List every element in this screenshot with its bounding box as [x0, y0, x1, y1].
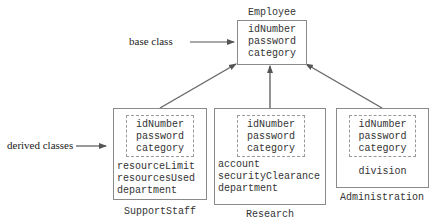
field: resourcesUsed — [117, 173, 195, 185]
field: department — [117, 185, 195, 197]
inherited-fields-box: idNumber password category — [349, 115, 416, 157]
research-class-box: idNumber password category account secur… — [214, 108, 326, 205]
field: idNumber — [238, 24, 306, 36]
derived-classes-label: derived classes — [7, 139, 73, 151]
field: account — [218, 159, 320, 171]
field: division — [337, 166, 428, 178]
field: password — [350, 131, 415, 143]
employee-class-box: idNumber password category — [237, 20, 307, 65]
field: password — [127, 131, 193, 143]
field: category — [238, 143, 304, 155]
administration-title: Administration — [330, 192, 434, 204]
field: idNumber — [350, 119, 415, 131]
administration-inherits-arrow — [306, 64, 382, 108]
supportstaff-class-box: idNumber password category resourceLimit… — [113, 108, 207, 200]
administration-class-box: idNumber password category division — [336, 108, 429, 188]
supportstaff-title: SupportStaff — [113, 206, 207, 218]
inherited-fields-box: idNumber password category — [126, 115, 194, 157]
field: department — [218, 183, 320, 195]
field: category — [350, 143, 415, 155]
base-class-label: base class — [129, 35, 173, 47]
research-title: Research — [214, 209, 326, 221]
employee-title: Employee — [237, 7, 307, 19]
field: password — [238, 131, 304, 143]
inherited-fields-box: idNumber password category — [237, 115, 305, 157]
field: password — [238, 36, 306, 48]
field: idNumber — [127, 119, 193, 131]
field: category — [127, 143, 193, 155]
field: securityClearance — [218, 171, 320, 183]
field: resourceLimit — [117, 161, 195, 173]
supportstaff-inherits-arrow — [160, 64, 236, 108]
field: idNumber — [238, 119, 304, 131]
field: category — [238, 48, 306, 60]
